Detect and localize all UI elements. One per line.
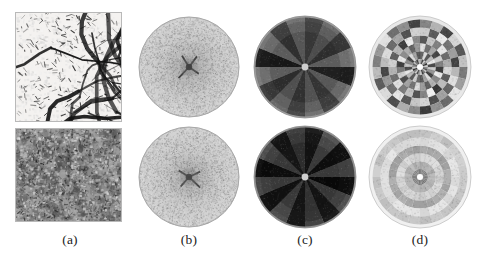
polar-wedge-ring-map-row1 [365, 12, 475, 122]
angular-sector-map-row1 [251, 13, 359, 121]
angular-sector-map-row2 [251, 123, 359, 231]
polar-wedge-ring-map-row2 [365, 122, 475, 232]
column-label-c: (c) [285, 232, 325, 248]
column-label-d: (d) [400, 232, 440, 248]
source-image-branching [15, 12, 122, 122]
figure-panel-grid: (a) (b) (c) (d) [0, 0, 483, 262]
column-label-row: (a) (b) (c) (d) [0, 226, 483, 262]
source-image-mottled [15, 128, 122, 222]
column-label-a: (a) [50, 232, 90, 248]
fourier-spectrum-disk-row1 [136, 14, 242, 120]
panel-grid [0, 0, 483, 226]
fourier-spectrum-disk-row2 [136, 124, 242, 230]
column-label-b: (b) [169, 232, 209, 248]
